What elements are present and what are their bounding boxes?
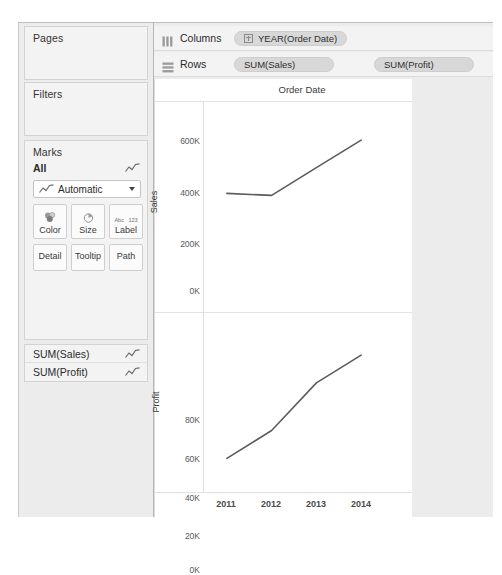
pages-card-title: Pages [25,27,147,44]
marks-detail-label: Detail [38,251,61,262]
visualization-canvas[interactable]: Order Date Sales 600K 400K 200K 0K [154,79,412,517]
mark-type-dropdown[interactable]: Automatic [33,180,141,198]
pill-sum-profit[interactable]: SUM(Profit) [374,57,474,72]
y-tick-label: 80K [185,415,200,425]
line-chart-icon [125,349,140,359]
marks-measure-list: SUM(Sales) SUM(Profit) [24,344,148,382]
line-chart-icon [39,184,58,194]
measure-row-sales[interactable]: SUM(Sales) [25,345,147,363]
marks-card-title: Marks [25,141,147,158]
y-tick-label: 60K [185,454,200,464]
y-tick-label: 20K [185,531,200,541]
color-circles-icon [43,209,57,225]
marks-color-button[interactable]: Color [33,204,67,239]
plot-area-profit[interactable] [203,312,388,492]
pill-sum-sales[interactable]: SUM(Sales) [234,57,334,72]
marks-label-button[interactable]: Abc 123 Label [109,204,143,239]
mark-type-label: Automatic [58,184,129,195]
marks-all-label: All [33,162,125,174]
measure-label: SUM(Sales) [33,348,125,360]
y-axis-title-profit: Profit [151,391,161,412]
123-text: 123 [128,217,137,223]
rows-icon [162,59,174,70]
series-line-sales [204,102,388,312]
x-axis: 2011 2012 2013 2014 [155,492,412,517]
x-tick-label: 2013 [296,499,336,509]
mark-buttons-row-1: Color Size Abc 123 [33,204,143,239]
y-tick-label: 200K [180,239,200,249]
y-axis-title-sales: Sales [149,191,159,214]
right-panel: Columns YEAR(Order Date) Rows SUM(Sales)… [154,23,493,517]
pages-card[interactable]: Pages [24,26,148,80]
abc-text: Abc [114,217,123,223]
pane-sales: Sales 600K 400K 200K 0K [155,102,412,312]
left-panel: Pages Filters Marks All Automatic [19,23,154,517]
y-tick-label: 600K [180,136,200,146]
marks-tooltip-label: Tooltip [75,251,101,262]
y-tick-label: 400K [180,188,200,198]
x-tick-label: 2011 [206,499,246,509]
pill-label: SUM(Profit) [384,59,434,70]
marks-label-label: Label [115,225,137,236]
rows-shelf[interactable]: Rows SUM(Sales) SUM(Profit) [154,52,493,77]
tableau-workspace: Pages Filters Marks All Automatic [18,22,493,517]
marks-color-label: Color [39,225,61,236]
measure-label: SUM(Profit) [33,366,125,378]
pill-label: SUM(Sales) [244,59,295,70]
rows-shelf-label: Rows [180,58,234,70]
x-tick-label: 2012 [251,499,291,509]
filters-card[interactable]: Filters [24,82,148,136]
line-chart-icon [125,367,140,377]
pane-profit: Profit 80K 60K 40K 20K 0K [155,312,412,492]
marks-all-row[interactable]: All [25,159,147,176]
size-circle-icon [82,209,95,225]
columns-icon [162,33,174,44]
pill-year-order-date[interactable]: YEAR(Order Date) [234,31,347,46]
abc-123-icon: Abc 123 [114,209,137,225]
columns-shelf-label: Columns [180,32,234,44]
chevron-down-icon[interactable] [129,187,135,191]
y-tick-label: 0K [190,286,200,296]
series-line-profit [204,312,388,492]
marks-card[interactable]: Marks All Automatic [24,140,148,340]
filters-card-title: Filters [25,83,147,100]
marks-path-label: Path [117,251,136,262]
pill-label: YEAR(Order Date) [258,33,337,44]
line-chart-icon [125,163,140,173]
marks-size-button[interactable]: Size [71,204,105,239]
x-tick-label: 2014 [341,499,381,509]
viz-column-header-title: Order Date [197,84,407,95]
plot-area-sales[interactable] [203,102,388,312]
measure-row-profit[interactable]: SUM(Profit) [25,363,147,381]
marks-path-button[interactable]: Path [109,244,143,271]
plus-box-icon[interactable] [244,34,253,43]
marks-tooltip-button[interactable]: Tooltip [71,244,105,271]
mark-buttons-row-2: Detail Tooltip Path [33,244,143,271]
marks-detail-button[interactable]: Detail [33,244,67,271]
columns-shelf[interactable]: Columns YEAR(Order Date) [154,26,493,51]
marks-size-label: Size [79,225,97,236]
y-tick-label: 0K [190,565,200,575]
